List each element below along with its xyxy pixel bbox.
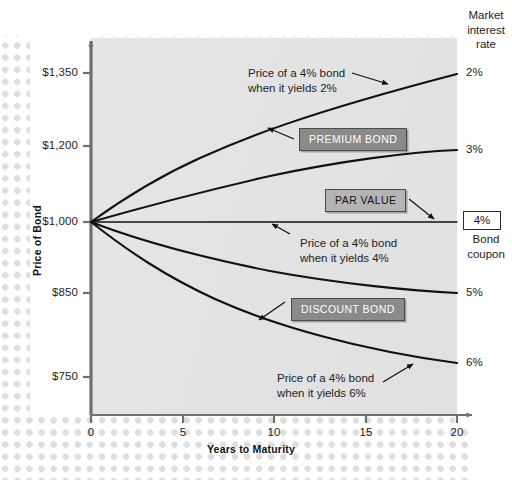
curve-yield-5pct — [91, 222, 457, 293]
right-axis-header-line1: Market — [460, 8, 512, 23]
curve-yield-6pct — [91, 222, 457, 363]
right-axis-header-line2: interest — [460, 23, 512, 38]
y-tick-label-750: $750 — [0, 370, 78, 382]
leader-caption-4pct — [272, 224, 290, 234]
series-label-3pct: 3% — [466, 143, 483, 155]
caption-yield-4pct-line1: Price of a 4% bond — [300, 236, 397, 251]
x-tick-label-10: 10 — [254, 426, 294, 438]
series-label-6pct: 6% — [466, 356, 483, 368]
bond-coupon-caption-line2: coupon — [460, 247, 512, 262]
caption-yield-2pct: Price of a 4% bond when it yields 2% — [248, 66, 345, 95]
caption-yield-2pct-line2: when it yields 2% — [248, 81, 345, 96]
caption-yield-6pct-line1: Price of a 4% bond — [277, 371, 374, 386]
leader-par-value — [409, 199, 434, 219]
caption-yield-4pct: Price of a 4% bond when it yields 4% — [300, 236, 397, 265]
leader-caption-2pct — [352, 73, 388, 84]
series-label-2pct: 2% — [466, 66, 483, 78]
discount-bond-badge: DISCOUNT BOND — [291, 298, 405, 321]
bond-coupon-caption: Bond coupon — [460, 232, 512, 261]
y-axis-title: Price of Bond — [31, 205, 43, 276]
bond-coupon-marker: 4% — [463, 211, 501, 230]
caption-yield-6pct-line2: when it yields 6% — [277, 386, 374, 401]
bond-coupon-caption-line1: Bond — [460, 232, 512, 247]
x-axis-title: Years to Maturity — [207, 443, 295, 455]
x-tick-label-20: 20 — [437, 426, 477, 438]
y-tick-label-1200: $1,200 — [0, 139, 78, 151]
series-label-5pct: 5% — [466, 286, 483, 298]
y-tick-label-1350: $1,350 — [0, 66, 78, 78]
premium-bond-badge: PREMIUM BOND — [299, 128, 407, 151]
leader-premium-bond — [268, 128, 294, 139]
caption-yield-6pct: Price of a 4% bond when it yields 6% — [277, 371, 374, 400]
leader-caption-6pct — [383, 364, 413, 382]
caption-yield-4pct-line2: when it yields 4% — [300, 251, 397, 266]
x-tick-label-15: 15 — [346, 426, 386, 438]
chart-figure: $1,350 $1,200 $1,000 $850 $750 0 5 10 15… — [0, 0, 512, 480]
par-value-badge: PAR VALUE — [325, 189, 406, 212]
x-tick-label-5: 5 — [163, 426, 203, 438]
caption-yield-2pct-line1: Price of a 4% bond — [248, 66, 345, 81]
right-axis-header: Market interest rate — [460, 8, 512, 52]
right-axis-header-line3: rate — [460, 37, 512, 52]
x-tick-label-0: 0 — [71, 426, 111, 438]
y-tick-label-850: $850 — [0, 286, 78, 298]
leader-discount-bond — [259, 302, 285, 320]
